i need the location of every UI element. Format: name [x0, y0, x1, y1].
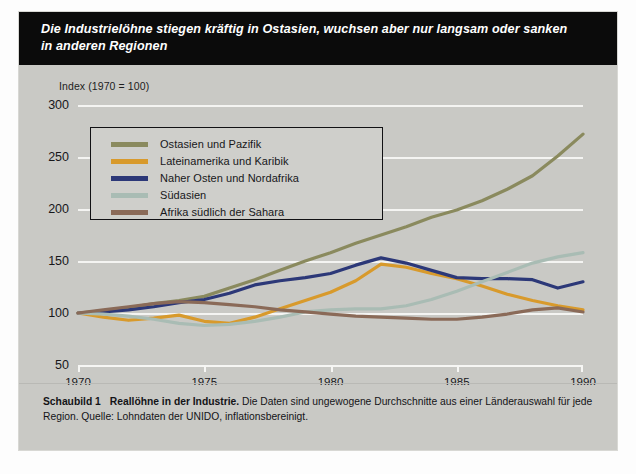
legend-swatch	[111, 159, 148, 164]
y-axis-tick-label: 50	[55, 358, 69, 372]
legend-swatch	[111, 176, 148, 181]
caption-divider	[19, 383, 617, 384]
y-axis-tick-label: 300	[48, 98, 69, 112]
caption-subject: Reallöhne in der Industrie.	[110, 396, 239, 407]
y-axis-tick-label: 200	[48, 202, 69, 216]
figure-caption: Schaubild 1Reallöhne in der Industrie. D…	[19, 385, 617, 450]
legend-label: Lateinamerika und Karibik	[160, 155, 288, 167]
y-axis-tick-label: 100	[48, 306, 69, 320]
legend-label: Südasien	[160, 189, 206, 201]
legend-item: Ostasien und Pazifik	[111, 136, 382, 152]
legend-swatch	[111, 210, 148, 215]
figure-root: Die Industrielöhne stiegen kräftig in Os…	[0, 0, 636, 474]
legend-item: Lateinamerika und Karibik	[111, 153, 382, 169]
title-line-1: Die Industrielöhne stiegen kräftig in Os…	[41, 21, 595, 38]
legend-item: Afrika südlich der Sahara	[111, 204, 382, 220]
legend-swatch	[111, 142, 148, 147]
caption-label: Schaubild 1	[43, 396, 101, 407]
y-axis-tick-label: 250	[48, 150, 69, 164]
caption-text: Schaubild 1Reallöhne in der Industrie. D…	[43, 394, 593, 424]
legend-label: Naher Osten und Nordafrika	[160, 172, 299, 184]
legend-item: Naher Osten und Nordafrika	[111, 170, 382, 186]
y-axis-tick-label: 150	[48, 254, 69, 268]
y-axis-title: Index (1970 = 100)	[59, 80, 149, 92]
legend-label: Ostasien und Pazifik	[160, 138, 261, 150]
legend-label: Afrika südlich der Sahara	[160, 206, 284, 218]
legend-swatch	[111, 193, 148, 198]
legend-item: Südasien	[111, 187, 382, 203]
title-line-2: in anderen Regionen	[41, 38, 595, 55]
chart-legend: Ostasien und PazifikLateinamerika und Ka…	[90, 127, 383, 220]
title-banner: Die Industrielöhne stiegen kräftig in Os…	[19, 12, 617, 65]
chart-body: Index (1970 = 100) 50100150200250300 197…	[19, 65, 617, 385]
